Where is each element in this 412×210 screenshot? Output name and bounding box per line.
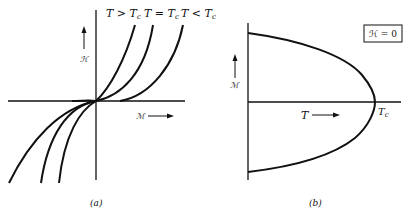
arrow-up-icon: [82, 26, 87, 33]
panel-b-x-axis-label: T: [301, 109, 310, 122]
magnetization-curve-upper: [248, 33, 375, 102]
label-t-above-tc: T > Tc: [106, 7, 141, 21]
tc-label: Tc: [378, 106, 389, 119]
label-t-below-tc: T < Tc: [181, 7, 216, 21]
arrow-right-icon: [333, 113, 340, 118]
curve-t-above-tc: [96, 25, 135, 101]
arrow-up-icon: [233, 54, 238, 61]
curve-t-equal-tc-lower: [41, 101, 96, 183]
panel-b-y-axis-label: ℳ: [230, 81, 240, 90]
figure-canvas: T > Tc T = Tc T < Tc ℋ ℳ (a) ℳ T Tc ℋ = …: [0, 0, 412, 210]
panel-a-caption: (a): [90, 198, 103, 208]
arrow-right-icon: [167, 114, 174, 119]
panel-b: [233, 23, 403, 180]
panel-a-y-axis-label: ℋ: [80, 55, 89, 64]
zero-field-label: ℋ = 0: [369, 29, 397, 39]
panel-a-x-axis-label: ℳ: [136, 112, 146, 121]
panel-b-caption: (b): [309, 198, 322, 208]
panel-a: [8, 10, 185, 183]
magnetization-curve-lower: [248, 102, 375, 172]
label-t-equal-tc: T = Tc: [144, 7, 179, 21]
